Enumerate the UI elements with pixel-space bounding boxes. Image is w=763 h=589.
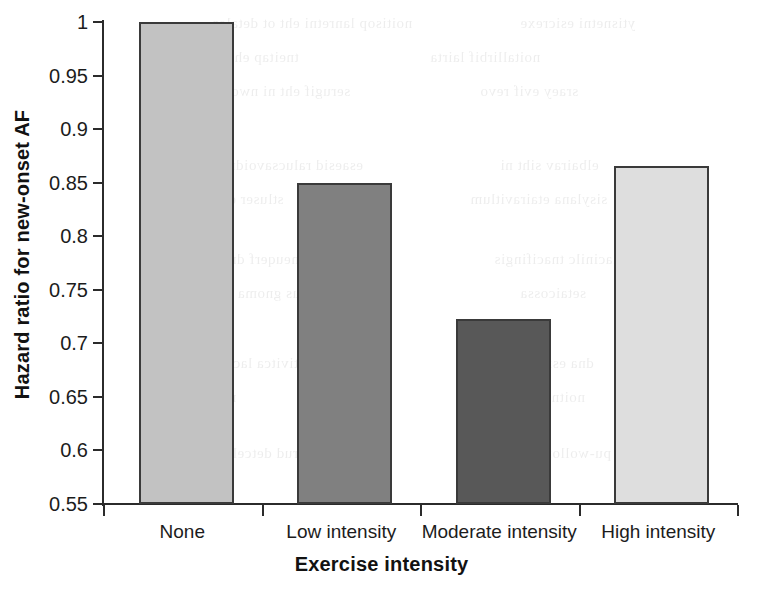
x-axis-category-label: None [103,521,262,543]
x-axis-tick [103,505,105,516]
y-axis-tick [93,449,103,451]
y-axis-tick [93,21,103,23]
y-axis-tick-label: 0.55 [0,493,88,516]
y-axis-tick [93,75,103,77]
bar [297,183,392,504]
y-axis-tick [93,503,103,505]
x-axis-tick [579,505,581,516]
y-axis-title: Hazard ratio for new-onset AF [11,20,34,490]
y-axis-tick [93,128,103,130]
plot-area [103,22,737,504]
bar [139,22,234,504]
bar [614,166,709,504]
x-axis-tick [262,505,264,516]
x-axis-category-label: Moderate intensity [420,521,579,543]
x-axis-tick [737,505,739,516]
y-axis-tick [93,182,103,184]
x-axis-category-label: Low intensity [262,521,421,543]
bar [456,319,551,504]
y-axis-tick [93,289,103,291]
y-axis-tick [93,396,103,398]
x-axis-title: Exercise intensity [0,553,763,576]
y-axis-tick [93,235,103,237]
bar-chart: 10.950.90.850.80.750.70.650.60.55 NoneLo… [0,0,763,589]
x-axis-tick [420,505,422,516]
y-axis-tick [93,342,103,344]
x-axis-category-label: High intensity [579,521,738,543]
